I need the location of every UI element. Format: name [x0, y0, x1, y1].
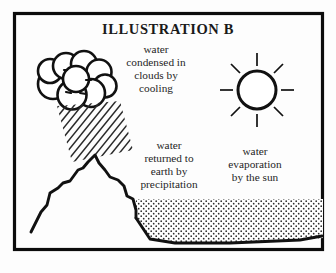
caption-line: by the sun: [232, 171, 279, 183]
water-cycle-illustration: ILLUSTRATION B: [0, 0, 336, 273]
caption-line: clouds by: [134, 69, 178, 81]
caption-line: water: [242, 145, 267, 157]
caption-line: precipitation: [140, 178, 197, 190]
illustration-figure: ILLUSTRATION B: [0, 0, 336, 273]
caption-line: earth by: [151, 165, 188, 177]
caption-line: returned to: [144, 152, 194, 164]
caption-line: water: [156, 139, 181, 151]
caption-line: cooling: [139, 82, 173, 94]
caption-line: condensed in: [126, 56, 186, 68]
figure-title: ILLUSTRATION B: [102, 21, 234, 37]
caption-line: evaporation: [228, 158, 282, 170]
sun: [220, 53, 294, 127]
caption-line: water: [143, 43, 168, 55]
body-of-water: [136, 199, 323, 243]
